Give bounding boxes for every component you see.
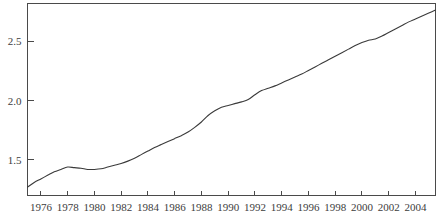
line-chart: 1976197819801982198419861988199019921994… — [0, 0, 443, 223]
x-tick-label: 1994 — [271, 201, 294, 213]
x-tick-label: 1986 — [164, 201, 187, 213]
x-tick-label: 2002 — [378, 201, 400, 213]
axis-frame — [28, 4, 436, 196]
x-tick-label: 1982 — [110, 201, 132, 213]
x-tick-label: 1992 — [244, 201, 266, 213]
y-tick-label: 2.5 — [8, 35, 22, 47]
x-tick-label: 1984 — [137, 201, 160, 213]
plot-frame — [28, 4, 436, 196]
y-axis-tick-labels: 1.52.02.5 — [8, 35, 22, 166]
y-tick-label: 1.5 — [8, 154, 22, 166]
x-tick-label: 1980 — [83, 201, 106, 213]
x-tick-label: 1988 — [190, 201, 213, 213]
x-tick-label: 1998 — [324, 201, 347, 213]
y-tick-label: 2.0 — [8, 95, 22, 107]
x-tick-label: 2000 — [351, 201, 374, 213]
x-axis-tick-labels: 1976197819801982198419861988199019921994… — [30, 201, 427, 213]
x-tick-label: 1978 — [57, 201, 80, 213]
data-series-group — [28, 10, 436, 187]
x-tick-label: 1996 — [297, 201, 320, 213]
x-tick-label: 1976 — [30, 201, 53, 213]
x-axis-ticks — [41, 191, 416, 196]
chart-canvas: 1976197819801982198419861988199019921994… — [0, 0, 443, 223]
x-tick-label: 1990 — [217, 201, 240, 213]
x-tick-label: 2004 — [404, 201, 427, 213]
y-axis-ticks — [28, 41, 34, 160]
series-line-1 — [28, 10, 436, 187]
